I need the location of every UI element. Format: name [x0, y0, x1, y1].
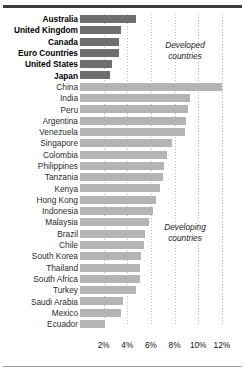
- bar-row: South Africa: [0, 274, 245, 285]
- bar: [80, 83, 222, 91]
- annotation-developing: Developing countries: [150, 222, 220, 243]
- bar-label: Kenya: [0, 185, 78, 194]
- bar: [80, 26, 121, 34]
- chart-figure: AustraliaUnited KingdomCanadaEuro Countr…: [0, 0, 245, 373]
- bar-track: [80, 60, 112, 68]
- bar-track: [80, 151, 167, 159]
- bar-row: Ecuador: [0, 319, 245, 330]
- bar: [80, 241, 144, 249]
- bar-row: United Kingdom: [0, 25, 245, 36]
- annotation-developed-line1: Developed: [150, 40, 220, 51]
- bar-row: Turkey: [0, 285, 245, 296]
- x-axis: 2%4%6%8%10%12%: [0, 340, 245, 356]
- bar-row: Indonesia: [0, 206, 245, 217]
- x-tick-label: 12%: [214, 340, 231, 351]
- bar-row: Australia: [0, 14, 245, 25]
- bar: [80, 207, 153, 215]
- bar-track: [80, 139, 172, 147]
- bar-label: Peru: [0, 106, 78, 115]
- bar-track: [80, 94, 190, 102]
- x-tick-label: 8%: [169, 340, 181, 351]
- bar-track: [80, 162, 164, 170]
- bar-track: [80, 218, 149, 226]
- bar-row: India: [0, 93, 245, 104]
- bar-row: Singapore: [0, 138, 245, 149]
- bar: [80, 38, 119, 46]
- bar-track: [80, 286, 136, 294]
- bar-row: Thailand: [0, 263, 245, 274]
- bar-row: Tanzania: [0, 172, 245, 183]
- bar: [80, 117, 186, 125]
- bar-row: Japan: [0, 70, 245, 81]
- bottom-divider-rule: [3, 366, 242, 367]
- bar: [80, 297, 123, 305]
- bar-label: Canada: [0, 38, 78, 47]
- bar: [80, 49, 119, 57]
- bar-row: China: [0, 82, 245, 93]
- bar: [80, 173, 163, 181]
- bar-label: United Kingdom: [0, 26, 78, 35]
- bar-label: Malaysia: [0, 218, 78, 227]
- bar-row: Hong Kong: [0, 195, 245, 206]
- bar-track: [80, 49, 119, 57]
- bar-track: [80, 38, 119, 46]
- bar: [80, 320, 105, 328]
- bar-track: [80, 264, 140, 272]
- bar-row: Saudi Arabia: [0, 296, 245, 307]
- bar-label: Brazil: [0, 230, 78, 239]
- bar-track: [80, 117, 186, 125]
- bar-track: [80, 320, 105, 328]
- bar-label: Hong Kong: [0, 196, 78, 205]
- bar-track: [80, 196, 156, 204]
- bar: [80, 60, 112, 68]
- bar: [80, 15, 136, 23]
- x-tick-label: 4%: [121, 340, 133, 351]
- bar: [80, 71, 110, 79]
- bar-row: Kenya: [0, 183, 245, 194]
- bar-row: Peru: [0, 104, 245, 115]
- bar: [80, 196, 156, 204]
- bar-row: Venezuela: [0, 127, 245, 138]
- top-divider-rule: [3, 5, 242, 8]
- bar-track: [80, 26, 121, 34]
- annotation-developing-line1: Developing: [150, 222, 220, 233]
- bar-track: [80, 105, 188, 113]
- bar-label: China: [0, 83, 78, 92]
- bar-label: South Korea: [0, 252, 78, 261]
- bar: [80, 139, 172, 147]
- bar-row: Mexico: [0, 308, 245, 319]
- bar: [80, 218, 149, 226]
- bar-row: South Korea: [0, 251, 245, 262]
- bar: [80, 184, 160, 192]
- bar: [80, 309, 121, 317]
- bar-row: Philippines: [0, 161, 245, 172]
- bar-label: Australia: [0, 15, 78, 24]
- bar-label: Thailand: [0, 264, 78, 273]
- bar: [80, 94, 190, 102]
- bar-label: Japan: [0, 72, 78, 81]
- annotation-developing-line2: countries: [150, 233, 220, 244]
- bar: [80, 105, 188, 113]
- bar: [80, 286, 136, 294]
- bar-row: Argentina: [0, 116, 245, 127]
- annotation-developed: Developed countries: [150, 40, 220, 61]
- bar-track: [80, 241, 144, 249]
- x-tick-label: 6%: [145, 340, 157, 351]
- bar-rows: AustraliaUnited KingdomCanadaEuro Countr…: [0, 14, 245, 330]
- bar: [80, 275, 140, 283]
- bar-track: [80, 309, 121, 317]
- bar-row: Colombia: [0, 150, 245, 161]
- bar-label: Philippines: [0, 162, 78, 171]
- bar-label: Singapore: [0, 139, 78, 148]
- bar-label: United States: [0, 60, 78, 69]
- bar-track: [80, 128, 185, 136]
- bar-label: Turkey: [0, 286, 78, 295]
- bar-label: India: [0, 94, 78, 103]
- bar-label: Indonesia: [0, 207, 78, 216]
- bar-label: Tanzania: [0, 173, 78, 182]
- bar-track: [80, 207, 153, 215]
- bar-track: [80, 297, 123, 305]
- bar-label: Euro Countries: [0, 49, 78, 58]
- x-tick-label: 10%: [190, 340, 207, 351]
- bar-label: Venezuela: [0, 128, 78, 137]
